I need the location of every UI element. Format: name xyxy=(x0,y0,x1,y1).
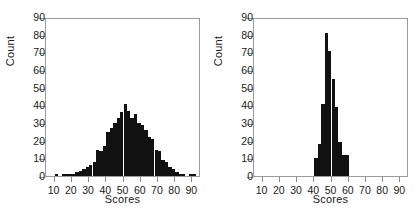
x-axis-label-left: Scores xyxy=(45,193,200,205)
y-axis-tick-label: 40 xyxy=(23,99,45,111)
histogram-bar xyxy=(345,155,348,176)
y-axis-tick-label: 90 xyxy=(23,11,45,23)
y-axis-tick-label: 50 xyxy=(231,82,253,94)
y-axis-tick-label: 20 xyxy=(231,135,253,147)
histogram-figure: Count 0102030405060708090102030405060708… xyxy=(0,0,416,216)
chart-panel-left: Count 0102030405060708090102030405060708… xyxy=(0,0,208,216)
histogram-bar xyxy=(55,174,58,176)
y-axis-tick-label: 90 xyxy=(231,11,253,23)
y-axis-tick-label: 30 xyxy=(231,117,253,129)
y-axis-label-right: Count xyxy=(212,16,224,86)
histogram-bar xyxy=(192,174,195,176)
histogram-bars-right xyxy=(254,19,407,176)
plot-area-left xyxy=(45,18,200,177)
y-axis-tick-label: 60 xyxy=(23,64,45,76)
y-axis-tick-label: 0 xyxy=(231,170,253,182)
y-axis-tick-label: 40 xyxy=(231,99,253,111)
y-axis-tick-label: 10 xyxy=(23,152,45,164)
histogram-bar xyxy=(182,174,185,176)
plot-area-right xyxy=(253,18,408,177)
y-axis-tick-label: 80 xyxy=(23,29,45,41)
y-axis-tick-label: 70 xyxy=(23,46,45,58)
y-axis-tick-label: 60 xyxy=(231,64,253,76)
y-axis-label-left: Count xyxy=(4,16,16,86)
y-axis-tick-label: 10 xyxy=(231,152,253,164)
y-axis-tick-label: 80 xyxy=(231,29,253,41)
histogram-bars-left xyxy=(46,19,199,176)
chart-panel-right: Count 0102030405060708090102030405060708… xyxy=(208,0,416,216)
y-axis-tick-label: 70 xyxy=(231,46,253,58)
y-axis-tick-label: 20 xyxy=(23,135,45,147)
y-axis-tick-label: 50 xyxy=(23,82,45,94)
y-axis-tick-label: 0 xyxy=(23,170,45,182)
x-axis-label-right: Scores xyxy=(253,193,408,205)
y-axis-tick-label: 30 xyxy=(23,117,45,129)
